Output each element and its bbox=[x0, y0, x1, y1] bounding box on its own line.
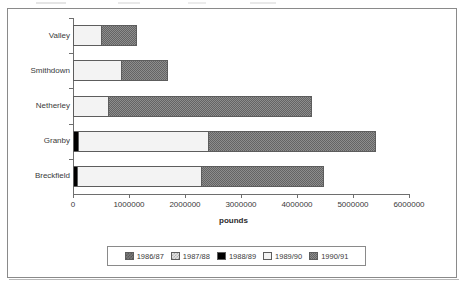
x-tick-label: 1000000 bbox=[113, 200, 144, 209]
plot-area bbox=[73, 18, 409, 194]
x-tick bbox=[409, 194, 410, 198]
category-label-valley: Valley bbox=[4, 31, 70, 40]
chart-legend: 1986/871987/881988/891989/901990/91 bbox=[107, 246, 366, 266]
y-tick bbox=[69, 88, 73, 89]
legend-swatch-icon bbox=[263, 252, 272, 260]
legend-item[interactable]: 1988/89 bbox=[217, 252, 256, 261]
legend-swatch-icon bbox=[309, 252, 318, 260]
x-tick bbox=[353, 194, 354, 198]
x-tick-label: 5000000 bbox=[337, 200, 368, 209]
x-tick bbox=[129, 194, 130, 198]
category-label-granby: Granby bbox=[4, 136, 70, 145]
bar-group bbox=[73, 131, 409, 152]
legend-item[interactable]: 1989/90 bbox=[263, 252, 302, 261]
legend-label: 1987/88 bbox=[183, 252, 210, 261]
x-tick bbox=[241, 194, 242, 198]
legend-label: 1990/91 bbox=[321, 252, 348, 261]
stacked-bar bbox=[73, 60, 168, 81]
category-label-breckfield: Breckfield bbox=[4, 171, 70, 180]
legend-item[interactable]: 1987/88 bbox=[171, 252, 210, 261]
chart-frame: ValleySmithdownNetherleyGranbyBreckfield… bbox=[7, 8, 457, 278]
legend-label: 1986/87 bbox=[137, 252, 164, 261]
scan-artifact bbox=[250, 2, 276, 4]
category-label-netherley: Netherley bbox=[4, 101, 70, 110]
stacked-bar bbox=[73, 96, 312, 117]
x-tick bbox=[185, 194, 186, 198]
x-tick bbox=[73, 194, 74, 198]
bar-group bbox=[73, 96, 409, 117]
bar-segment bbox=[101, 25, 137, 46]
stacked-bar bbox=[73, 166, 324, 187]
bar-segment bbox=[108, 96, 312, 117]
legend-swatch-icon bbox=[217, 252, 226, 260]
x-tick-label: 4000000 bbox=[281, 200, 312, 209]
x-tick-label: 3000000 bbox=[225, 200, 256, 209]
bar-segment bbox=[77, 166, 201, 187]
legend-item[interactable]: 1990/91 bbox=[309, 252, 348, 261]
scan-artifact bbox=[188, 2, 206, 4]
frame-shadow bbox=[9, 279, 459, 280]
bar-group bbox=[73, 25, 409, 46]
y-tick bbox=[69, 124, 73, 125]
bar-segment bbox=[208, 131, 376, 152]
bar-group bbox=[73, 166, 409, 187]
x-tick-label: 2000000 bbox=[169, 200, 200, 209]
stacked-bar bbox=[73, 131, 376, 152]
x-tick bbox=[297, 194, 298, 198]
y-tick bbox=[69, 159, 73, 160]
y-tick bbox=[69, 53, 73, 54]
scan-artifact bbox=[36, 2, 66, 4]
x-axis-title: pounds bbox=[1, 216, 465, 225]
y-tick bbox=[69, 18, 73, 19]
category-label-smithdown: Smithdown bbox=[4, 66, 70, 75]
bar-segment bbox=[121, 60, 169, 81]
legend-item[interactable]: 1986/87 bbox=[125, 252, 164, 261]
legend-label: 1989/90 bbox=[275, 252, 302, 261]
legend-swatch-icon bbox=[171, 252, 180, 260]
bar-segment bbox=[73, 60, 121, 81]
stacked-bar bbox=[73, 25, 137, 46]
bar-segment bbox=[78, 131, 208, 152]
bar-group bbox=[73, 60, 409, 81]
bar-segment bbox=[201, 166, 324, 187]
x-tick-label: 6000000 bbox=[393, 200, 424, 209]
bar-segment bbox=[73, 25, 101, 46]
x-tick-label: 0 bbox=[71, 200, 75, 209]
bar-segment bbox=[73, 96, 108, 117]
legend-swatch-icon bbox=[125, 252, 134, 260]
scan-artifact bbox=[118, 2, 140, 4]
legend-label: 1988/89 bbox=[229, 252, 256, 261]
